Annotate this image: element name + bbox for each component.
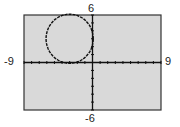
graph-screen: [0, 0, 180, 127]
